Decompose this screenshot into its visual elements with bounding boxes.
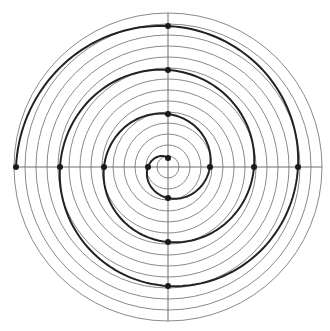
spiral-point-left [13,164,19,170]
spiral-point-left [57,164,63,170]
spiral-point-top [165,111,171,117]
spiral-point-top [165,67,171,73]
spiral-diagram [0,0,330,331]
spiral-point-left [145,164,151,170]
polar-grid-canvas [0,0,330,331]
spiral-point-top [165,155,171,161]
spiral-point-bottom [165,283,171,289]
spiral-point-right [295,164,301,170]
spiral-point-bottom [165,195,171,201]
spiral-point-bottom [165,239,171,245]
spiral-point-left [101,164,107,170]
spiral-point-right [207,164,213,170]
spiral-point-top [165,23,171,29]
spiral-point-right [251,164,257,170]
